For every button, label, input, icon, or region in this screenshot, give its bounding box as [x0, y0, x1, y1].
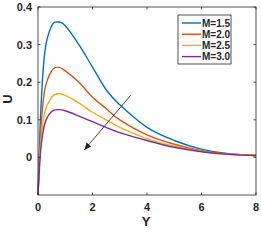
x-tick-label: 2 [89, 201, 95, 213]
x-tick-label: 0 [35, 201, 41, 213]
y-tick-label: 0.1 [17, 114, 32, 126]
svg-text:M=2.0: M=2.0 [202, 29, 231, 40]
svg-text:M=3.0: M=3.0 [202, 51, 231, 62]
y-axis-label: U [0, 94, 15, 103]
chart-legend: M=1.5M=2.0M=2.5M=3.0 [178, 15, 231, 64]
y-tick-label: 0 [26, 151, 32, 163]
y-tick-label: 0.3 [17, 39, 32, 51]
svg-text:M=2.5: M=2.5 [202, 40, 231, 51]
y-tick-label: 0.2 [17, 76, 32, 88]
y-tick-label: 0.4 [17, 1, 33, 13]
x-axis-label: Y [142, 214, 151, 229]
x-tick-label: 8 [253, 201, 259, 213]
line-chart: 0246800.10.20.30.4YU M=1.5M=2.0M=2.5M=3.… [0, 0, 261, 232]
x-tick-label: 4 [144, 201, 151, 213]
svg-text:M=1.5: M=1.5 [202, 18, 231, 29]
x-tick-label: 6 [198, 201, 204, 213]
